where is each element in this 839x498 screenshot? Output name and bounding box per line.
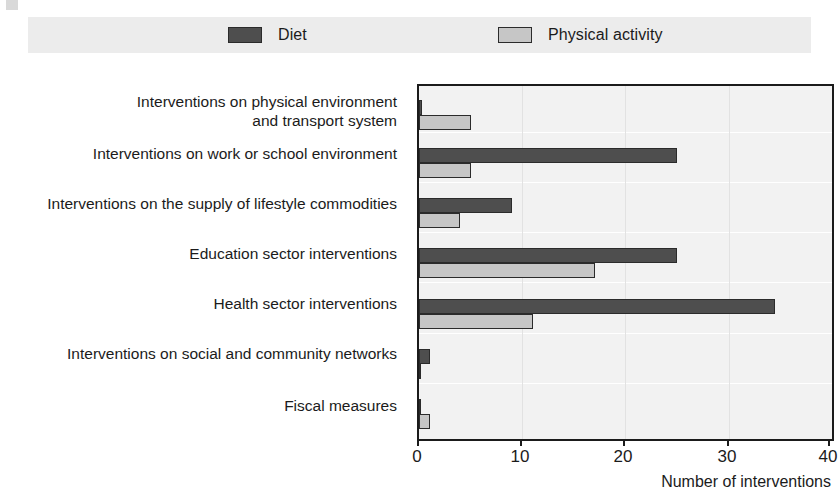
y-axis-labels: Interventions on physical environment an…	[0, 84, 409, 437]
x-tick-20	[623, 439, 625, 446]
x-tick-10	[520, 439, 522, 446]
chart-page: Diet Physical activity Interventions on …	[0, 0, 839, 498]
y-axis-label-1: Interventions on work or school environm…	[93, 144, 397, 163]
legend-item-physical-activity: Physical activity	[498, 26, 663, 44]
x-tick-label-10: 10	[511, 447, 530, 467]
bar-diet-4	[419, 299, 775, 314]
bar-diet-0	[419, 100, 422, 115]
bar-physical-activity-4	[419, 314, 533, 329]
plot-area	[417, 84, 834, 441]
bar-physical-activity-2	[419, 213, 460, 228]
bar-diet-2	[419, 198, 512, 213]
y-axis-label-0: Interventions on physical environment an…	[137, 92, 397, 130]
x-tick-label-40: 40	[819, 447, 838, 467]
legend-swatch-light-icon	[498, 27, 532, 43]
bar-physical-activity-1	[419, 163, 471, 178]
x-tick-label-30: 30	[718, 447, 737, 467]
gridline-v-30	[729, 86, 730, 439]
x-tick-30	[727, 439, 729, 446]
x-axis-title: Number of interventions	[661, 473, 831, 491]
bar-physical-activity-5	[419, 364, 421, 379]
x-axis-tick-labels: 0 10 20 30 40	[417, 447, 830, 471]
legend-label-diet: Diet	[278, 26, 307, 44]
bar-physical-activity-3	[419, 263, 595, 278]
legend-swatch-dark-icon	[228, 27, 262, 43]
x-tick-40	[828, 439, 830, 446]
page-corner-mark	[6, 0, 18, 10]
legend-label-physical-activity: Physical activity	[548, 26, 663, 44]
x-tick-0	[417, 439, 419, 446]
x-tick-label-20: 20	[614, 447, 633, 467]
bar-diet-3	[419, 248, 677, 263]
y-axis-label-3: Education sector interventions	[189, 244, 397, 263]
x-tick-label-0: 0	[412, 447, 421, 467]
bar-diet-1	[419, 148, 677, 163]
y-axis-label-6: Fiscal measures	[284, 396, 397, 415]
bar-diet-6	[419, 399, 421, 414]
y-axis-label-2: Interventions on the supply of lifestyle…	[47, 194, 397, 213]
y-axis-label-5: Interventions on social and community ne…	[67, 344, 397, 363]
bar-diet-5	[419, 349, 430, 364]
bar-physical-activity-6	[419, 414, 430, 429]
bar-physical-activity-0	[419, 115, 471, 130]
y-axis-label-4: Health sector interventions	[213, 294, 397, 313]
legend-item-diet: Diet	[228, 26, 307, 44]
chart-legend: Diet Physical activity	[28, 17, 811, 53]
